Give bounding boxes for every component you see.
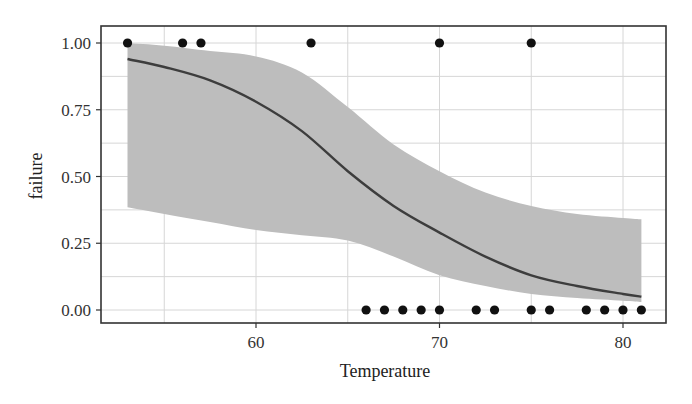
confidence-band (128, 43, 642, 302)
data-point (417, 305, 426, 314)
y-tick-label: 0.25 (61, 234, 91, 253)
x-tick-label: 70 (431, 333, 448, 352)
data-point (306, 38, 315, 47)
data-point (178, 38, 187, 47)
data-point (196, 38, 205, 47)
data-point (398, 305, 407, 314)
x-tick-label: 80 (615, 333, 632, 352)
y-tick-label: 0.50 (61, 168, 91, 187)
data-point (527, 305, 536, 314)
data-point (600, 305, 609, 314)
data-point (435, 38, 444, 47)
data-point (362, 305, 371, 314)
data-point (472, 305, 481, 314)
y-tick-label: 0.75 (61, 101, 91, 120)
data-point (123, 38, 132, 47)
y-tick-label: 0.00 (61, 301, 91, 320)
data-point (435, 305, 444, 314)
x-axis-title: Temperature (340, 361, 431, 381)
y-axis-title: failure (26, 153, 46, 200)
data-point (637, 305, 646, 314)
logistic-regression-chart: 607080 0.000.250.500.751.00 Temperature … (0, 0, 692, 404)
data-point (380, 305, 389, 314)
data-point (527, 38, 536, 47)
y-axis: 0.000.250.500.751.00 (61, 34, 101, 320)
y-tick-label: 1.00 (61, 34, 91, 53)
data-point (490, 305, 499, 314)
data-point (618, 305, 627, 314)
x-axis: 607080 (248, 323, 632, 352)
data-point (545, 305, 554, 314)
x-tick-label: 60 (248, 333, 265, 352)
data-point (582, 305, 591, 314)
